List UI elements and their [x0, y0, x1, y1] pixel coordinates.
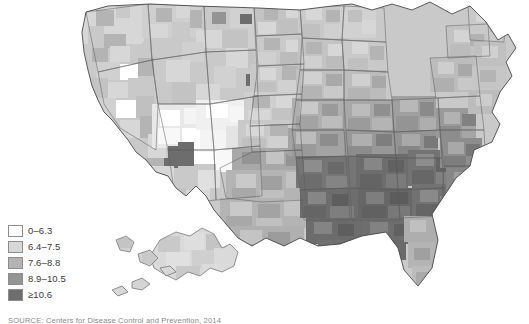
source-note: SOURCE: Centers for Disease Control and … — [8, 316, 221, 324]
legend-swatch-1 — [8, 241, 23, 253]
legend-item: 7.6–8.8 — [8, 256, 66, 270]
choropleth-map-figure: 0–6.3 6.4–7.5 7.6–8.8 8.9–10.5 ≥10.6 SOU… — [0, 0, 529, 324]
legend-swatch-3 — [8, 273, 23, 285]
legend-item: 8.9–10.5 — [8, 272, 66, 286]
legend-swatch-0 — [8, 225, 23, 237]
legend-label-4: ≥10.6 — [28, 289, 52, 301]
legend-item: ≥10.6 — [8, 288, 66, 302]
legend-label-1: 6.4–7.5 — [28, 241, 60, 253]
region-upper-midwest — [296, 4, 386, 100]
region-ohio-valley — [288, 96, 438, 158]
legend-item: 0–6.3 — [8, 224, 66, 238]
legend-swatch-2 — [8, 257, 23, 269]
legend-item: 6.4–7.5 — [8, 240, 66, 254]
legend-label-0: 0–6.3 — [28, 225, 52, 237]
legend-label-2: 7.6–8.8 — [28, 257, 60, 269]
region-florida — [404, 216, 438, 288]
map-legend: 0–6.3 6.4–7.5 7.6–8.8 8.9–10.5 ≥10.6 — [8, 224, 66, 302]
lower-48-counties — [0, 0, 529, 324]
legend-swatch-4 — [8, 289, 23, 301]
alaska-inset — [100, 224, 250, 304]
legend-label-3: 8.9–10.5 — [28, 273, 66, 285]
us-county-choropleth-map — [0, 0, 529, 324]
